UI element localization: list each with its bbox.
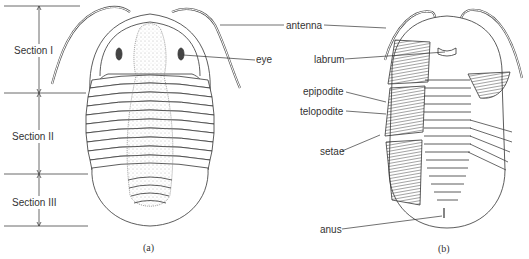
section-2-label: Section II [12, 130, 54, 143]
trilobite-ventral-view [385, 10, 522, 228]
caption-b: (b) [438, 243, 450, 254]
trilobite-dorsal-view [52, 7, 240, 226]
labrum-label: labrum [314, 54, 345, 65]
section-3-label: Section III [12, 196, 56, 209]
eye-label: eye [256, 54, 272, 65]
trilobite-diagram [0, 0, 529, 259]
telopodite-label: telopodite [300, 106, 343, 117]
section-guides [4, 6, 88, 226]
setae-label: setae [320, 146, 344, 157]
antenna-label: antenna [286, 20, 322, 31]
anus-label: anus [320, 224, 342, 235]
epipodite-label: epipodite [303, 86, 344, 97]
section-1-label: Section I [14, 44, 53, 57]
caption-a: (a) [143, 242, 154, 253]
